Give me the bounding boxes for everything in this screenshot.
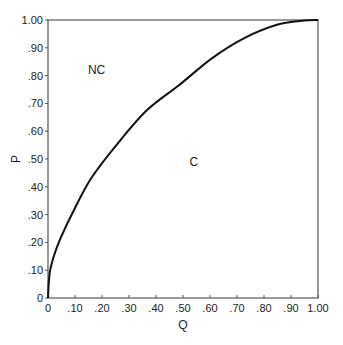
y-tick-label: 1.00 bbox=[22, 14, 43, 26]
y-tick-label: .70 bbox=[28, 97, 43, 109]
x-tick-label: .60 bbox=[202, 302, 217, 314]
y-axis-ticks: 0.10.20.30.40.50.60.70.80.901.00 bbox=[22, 14, 48, 304]
y-tick-label: .50 bbox=[28, 153, 43, 165]
plot-frame bbox=[48, 20, 318, 298]
chart: 0.10.20.30.40.50.60.70.80.901.00 0.10.20… bbox=[0, 0, 343, 345]
x-tick-label: .90 bbox=[283, 302, 298, 314]
x-axis-label: Q bbox=[178, 318, 187, 332]
boundary-curve bbox=[48, 20, 318, 298]
y-tick-label: .20 bbox=[28, 236, 43, 248]
x-tick-label: .40 bbox=[148, 302, 163, 314]
x-tick-label: .70 bbox=[229, 302, 244, 314]
x-tick-label: .50 bbox=[175, 302, 190, 314]
x-tick-label: .80 bbox=[256, 302, 271, 314]
region-label-nc: NC bbox=[88, 63, 106, 77]
y-tick-label: 0 bbox=[37, 292, 43, 304]
y-tick-label: .80 bbox=[28, 70, 43, 82]
x-tick-label: .10 bbox=[67, 302, 82, 314]
region-label-c: C bbox=[189, 155, 198, 169]
y-axis-label: P bbox=[9, 155, 23, 163]
y-tick-label: .40 bbox=[28, 181, 43, 193]
y-tick-label: .60 bbox=[28, 125, 43, 137]
y-tick-label: .10 bbox=[28, 264, 43, 276]
x-tick-label: 0 bbox=[45, 302, 51, 314]
x-tick-label: .30 bbox=[121, 302, 136, 314]
y-tick-label: .30 bbox=[28, 209, 43, 221]
x-tick-label: .20 bbox=[94, 302, 109, 314]
y-tick-label: .90 bbox=[28, 42, 43, 54]
plot-border bbox=[48, 20, 318, 298]
x-tick-label: 1.00 bbox=[307, 302, 328, 314]
